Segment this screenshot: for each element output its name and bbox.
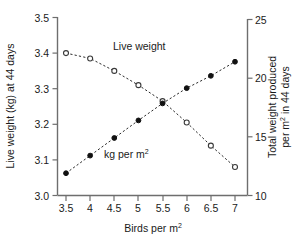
x-tick-label: 6 [184,202,190,214]
x-tick-label: 3.5 [59,202,74,214]
x-tick-label: 6.5 [204,202,219,214]
x-tick-label: 4 [87,202,93,214]
chart-figure: 3.5 3.4 3.3 3.2 3.1 3.0 25 20 15 10 [0,0,307,241]
data-point [233,165,238,170]
data-point [112,68,117,73]
data-point [208,73,213,78]
y2-tick-label: 10 [255,190,267,202]
y-tick-label: 3.1 [34,154,49,166]
y-tick-label: 3.2 [34,118,49,130]
x-axis-ticks [66,196,235,202]
x-tick-label: 5.5 [156,202,171,214]
x-axis-title: Birds per m2 [124,222,182,234]
data-point [112,136,117,141]
data-point [64,51,69,56]
series-layer [64,51,238,176]
y-right-axis-title-line1: Total weight produced [266,56,278,158]
y2-tick-label: 25 [255,14,267,26]
chart-canvas: 3.5 3.4 3.3 3.2 3.1 3.0 25 20 15 10 [0,0,307,241]
x-axis-tick-labels: 3.5 4 4.5 5 5.5 6 6.5 7 [59,202,238,214]
left-axis-ticks [53,18,58,196]
x-tick-label: 7 [232,202,238,214]
data-point [88,153,93,158]
x-tick-label: 5 [135,202,141,214]
y-tick-label: 3.4 [34,47,49,59]
data-point [233,59,238,64]
data-point [184,120,189,125]
data-point [184,86,189,91]
series-line-1 [66,53,235,167]
data-point [88,56,93,61]
y-tick-label: 3.5 [34,12,49,24]
series-label-live-weight: Live weight [113,40,166,52]
data-point [208,143,213,148]
series-label-kg-per-m2: kg per m2 [104,148,149,160]
y-right-axis-title-line2: per m2 in 44 days [279,66,291,148]
data-point [64,171,69,176]
y-tick-label: 3.3 [34,83,49,95]
y-tick-label: 3.0 [34,190,49,202]
right-axis-ticks [248,20,253,196]
x-tick-label: 4.5 [107,202,122,214]
data-point [160,101,165,106]
left-axis-tick-labels: 3.5 3.4 3.3 3.2 3.1 3.0 [34,12,49,202]
y-left-axis-title: Live weight (kg) at 44 days [4,44,16,169]
data-point [136,118,141,123]
data-point [136,83,141,88]
